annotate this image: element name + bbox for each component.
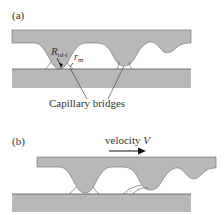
- panel-b-label: (b): [12, 135, 25, 148]
- meniscus-arrow: [70, 63, 73, 67]
- capillary-bridges-label: Capillary bridges: [49, 97, 125, 109]
- meniscus-label: rm: [74, 51, 84, 64]
- panel-a-top-surface: [12, 30, 191, 69]
- panel-b-top-surface: [37, 157, 216, 193]
- velocity-label: velocity V: [105, 134, 151, 146]
- panel-a-bottom-surface: [12, 69, 191, 88]
- panel-b-residual-meniscus: [126, 191, 134, 194]
- velocity-arrowhead-icon: [138, 148, 146, 155]
- capillary-bridge-diagram: (a) Rtd-i rm Capillary bridges (b) veloc…: [0, 0, 224, 215]
- panel-b-bottom-surface: [12, 194, 191, 212]
- panel-a-label: (a): [12, 9, 25, 22]
